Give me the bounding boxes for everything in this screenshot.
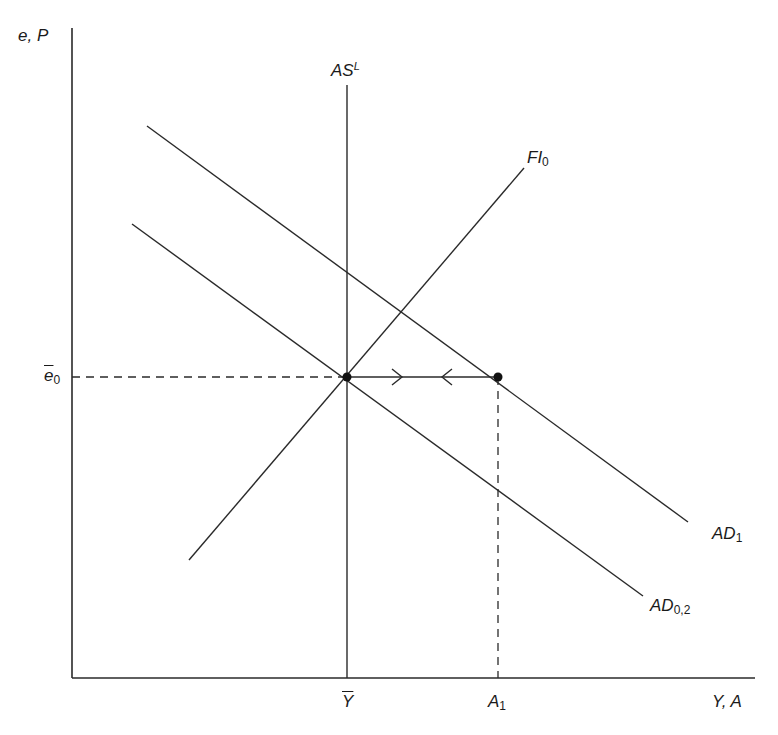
e0-tick-label: e0	[44, 366, 60, 387]
y-axis-label: e, P	[18, 26, 48, 46]
y-bar-tick-label: Y	[342, 692, 353, 712]
as-long-run-label-main: AS	[331, 61, 354, 80]
y-bar-tick-label-main: Y	[342, 692, 353, 711]
e0-tick-label-sub: 0	[53, 373, 60, 387]
ad1-label: AD1	[712, 524, 742, 545]
diagram-canvas	[0, 0, 778, 735]
ad02-label: AD0,2	[650, 596, 690, 617]
ad1-label-sub: 1	[736, 531, 743, 545]
equilibrium-point	[343, 373, 352, 382]
ad02-label-sub: 0,2	[674, 603, 691, 617]
as-long-run-label-sup: L	[354, 60, 360, 72]
fi0-label-main: FI	[527, 148, 542, 167]
fi0-line	[189, 168, 524, 560]
x-axis-label: Y, A	[712, 692, 742, 712]
shifted-point	[494, 373, 503, 382]
as-long-run-label: ASL	[331, 60, 360, 81]
a1-tick-label: A1	[488, 692, 506, 713]
ad02-label-main: AD	[650, 596, 674, 615]
fi0-label: FI0	[527, 148, 549, 169]
a1-tick-label-main: A	[488, 692, 499, 711]
ad1-line	[147, 126, 688, 522]
ad02-line	[132, 224, 643, 596]
ad1-label-main: AD	[712, 524, 736, 543]
a1-tick-label-sub: 1	[499, 699, 506, 713]
fi0-label-sub: 0	[542, 155, 549, 169]
